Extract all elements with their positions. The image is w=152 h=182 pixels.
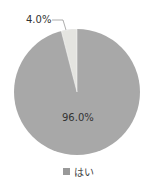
pie-chart <box>0 0 152 182</box>
large-slice-label: 96.0% <box>62 112 94 123</box>
small-slice-label: 4.0% <box>26 14 51 25</box>
leader-line <box>52 20 66 30</box>
legend-label: はい <box>74 164 94 179</box>
legend-swatch <box>63 168 70 175</box>
legend: はい <box>63 164 94 179</box>
